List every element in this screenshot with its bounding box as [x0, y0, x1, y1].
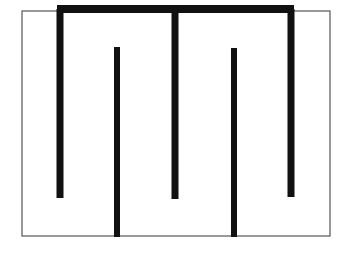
impossible-fork-figure	[0, 0, 338, 266]
canvas-background	[0, 0, 338, 266]
figure-canvas	[0, 0, 338, 266]
